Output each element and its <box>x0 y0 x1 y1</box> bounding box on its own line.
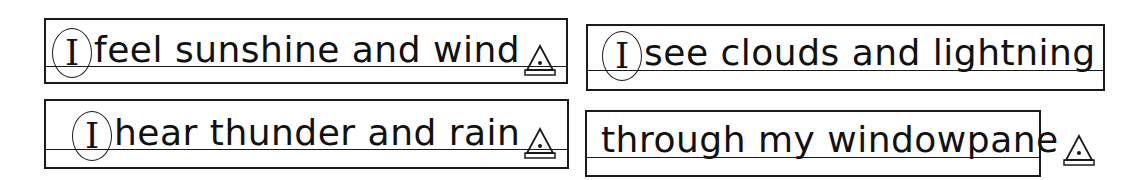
circled-pronoun-i: I <box>72 111 112 161</box>
sentence-text: feel sunshine and wind <box>94 32 520 68</box>
sentence-strip-4: through my windowpane <box>585 110 1041 177</box>
circled-pronoun-i: I <box>602 31 642 81</box>
sentence-strip-3: I hear thunder and rain <box>44 99 569 169</box>
sentence-strip-1: I feel sunshine and wind <box>44 18 568 84</box>
sentence-text: through my windowpane <box>601 122 1059 158</box>
sentence-strip-2: I see clouds and lightning <box>586 24 1105 91</box>
circled-pronoun-i: I <box>52 28 92 78</box>
triangle-period-icon <box>523 34 557 68</box>
sentence-text: see clouds and lightning <box>644 35 1096 71</box>
triangle-period-icon <box>523 117 557 151</box>
sentence-text: hear thunder and rain <box>114 115 520 151</box>
